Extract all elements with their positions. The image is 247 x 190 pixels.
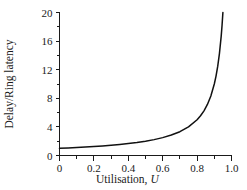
- x-tick-label: 0.6: [156, 162, 170, 174]
- y-tick-label: 4: [47, 121, 53, 133]
- y-tick-label: 0: [47, 150, 53, 162]
- x-tick-label: 0.2: [87, 162, 101, 174]
- x-axis-title: Utilisation,: [96, 173, 148, 186]
- x-tick-label: 0.4: [121, 162, 135, 174]
- y-tick-label: 16: [42, 35, 54, 47]
- y-tick-label: 12: [42, 64, 53, 76]
- y-tick-label: 20: [42, 7, 54, 19]
- x-tick-label: 0: [57, 162, 63, 174]
- chart-figure: 048121620 00.20.40.60.81.0 Delay/Ring la…: [0, 0, 247, 190]
- x-tick-label: 1.0: [225, 162, 239, 174]
- y-axis-title: Delay/Ring latency: [3, 39, 16, 128]
- x-tick-label: 0.8: [190, 162, 204, 174]
- x-axis-title-group: Utilisation, U: [96, 173, 159, 186]
- x-axis-title-symbol: U: [151, 173, 160, 185]
- chart-plot-area: 048121620 00.20.40.60.81.0 Delay/Ring la…: [0, 0, 247, 190]
- y-tick-label: 8: [47, 92, 53, 104]
